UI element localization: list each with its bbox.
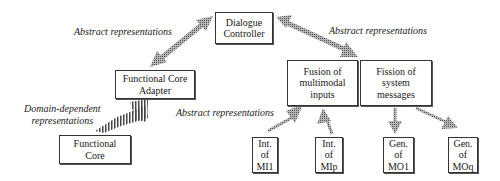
functional-core-adapter-box: Functional Core Adapter <box>115 70 195 99</box>
int-mip-box: Int. of MIp <box>315 137 343 173</box>
functional-core-box: Functional Core <box>59 135 131 164</box>
fusion-label: Fusion of multimodal inputs <box>299 66 345 101</box>
domain-dependent-representations-label: Domain-dependent representations <box>24 103 101 126</box>
arrow-fission-moq <box>416 108 458 129</box>
arrow-mip-fusion <box>317 108 332 134</box>
functional-core-label: Functional Core <box>74 138 117 161</box>
abstract-representations-bottom-label: Abstract representations <box>176 107 274 119</box>
abstract-representations-right-label: Abstract representations <box>329 25 427 37</box>
double-arrow-dc-fca <box>150 16 213 67</box>
fission-label: Fission of system messages <box>376 66 416 101</box>
gen-moq-box: Gen. of MOq <box>448 137 478 173</box>
dialogue-controller-box: Dialogue Controller <box>215 12 273 44</box>
functional-core-adapter-label: Functional Core Adapter <box>123 73 188 96</box>
int-mip-label: Int. of MIp <box>320 138 337 173</box>
dialogue-controller-label: Dialogue Controller <box>223 17 264 40</box>
gen-mo1-label: Gen. of MO1 <box>388 138 409 173</box>
int-mi1-label: Int. of MI1 <box>256 138 273 173</box>
int-mi1-box: Int. of MI1 <box>252 137 278 173</box>
fusion-box: Fusion of multimodal inputs <box>287 60 358 106</box>
abstract-representations-left-label: Abstract representations <box>74 26 172 38</box>
fission-box: Fission of system messages <box>360 60 432 106</box>
gen-moq-label: Gen. of MOq <box>452 138 473 173</box>
arrow-fission-mo1 <box>388 108 402 134</box>
gen-mo1-box: Gen. of MO1 <box>383 137 414 173</box>
striped-arrow-fc-fca <box>95 99 148 133</box>
